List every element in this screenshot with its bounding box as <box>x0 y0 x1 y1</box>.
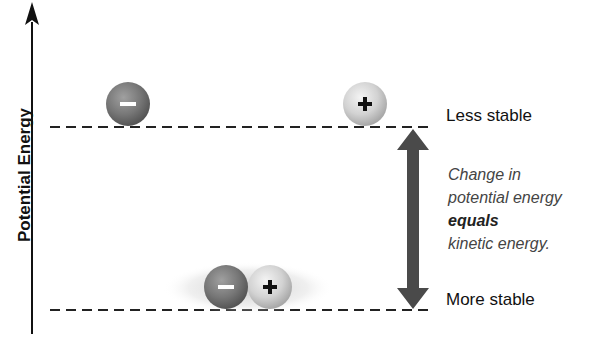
y-axis-label: Potential Energy <box>15 95 35 255</box>
more-stable-label: More stable <box>446 290 535 310</box>
less-stable-label: Less stable <box>446 106 532 126</box>
negative-particle-separated <box>106 82 150 126</box>
bond-glow <box>163 262 333 314</box>
energy-change-double-arrow-icon <box>397 129 429 309</box>
positive-particle-bonded <box>248 265 292 309</box>
positive-particle-separated <box>343 82 387 126</box>
energy-note: Change in potential energy equals kineti… <box>448 163 562 255</box>
negative-particle-bonded <box>204 265 248 309</box>
note-line-1: Change in <box>448 163 562 186</box>
minus-icon <box>218 285 234 289</box>
note-line-3: equals <box>448 209 562 232</box>
note-line-2: potential energy <box>448 186 562 209</box>
note-line-4: kinetic energy. <box>448 232 562 255</box>
minus-icon <box>120 102 136 106</box>
axis-arrowhead-icon <box>25 2 39 25</box>
